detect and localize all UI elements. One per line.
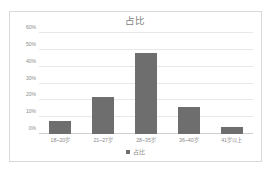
- y-axis-tick-label: 10%: [26, 108, 36, 114]
- x-axis-tick-label: 36~40岁: [167, 136, 210, 148]
- bar-series: [39, 33, 253, 134]
- chart-container[interactable]: 占比 0%10%20%30%40%50%60% 18~20岁21~27岁28~3…: [9, 11, 262, 162]
- bar-slot: [39, 33, 82, 134]
- legend-swatch-icon: [126, 150, 130, 154]
- bar[interactable]: [178, 107, 200, 134]
- bar[interactable]: [49, 121, 71, 134]
- x-axis-tick-label: 28~35岁: [125, 136, 168, 148]
- chart-title: 占比: [10, 15, 261, 27]
- y-axis-tick-label: 50%: [26, 41, 36, 47]
- bar-slot: [82, 33, 125, 134]
- x-axis-tick-label: 41岁以上: [210, 136, 253, 148]
- x-axis-tick-labels: 18~20岁21~27岁28~35岁36~40岁41岁以上: [39, 136, 253, 148]
- legend-label: 占比: [133, 148, 145, 156]
- y-axis-tick-label: 40%: [26, 58, 36, 64]
- y-axis-tick-label: 20%: [26, 91, 36, 97]
- bar[interactable]: [92, 97, 114, 134]
- bar-slot: [167, 33, 210, 134]
- chart-legend[interactable]: 占比: [10, 148, 261, 156]
- bar-slot: [125, 33, 168, 134]
- x-axis-tick-label: 18~20岁: [39, 136, 82, 148]
- y-axis-tick-label: 0%: [29, 125, 36, 131]
- x-axis-tick-label: 21~27岁: [82, 136, 125, 148]
- bar[interactable]: [135, 53, 157, 134]
- bar-slot: [210, 33, 253, 134]
- y-axis-tick-label: 60%: [26, 24, 36, 30]
- bar[interactable]: [221, 127, 243, 134]
- plot-area: 0%10%20%30%40%50%60%: [39, 33, 253, 134]
- y-axis-tick-label: 30%: [26, 75, 36, 81]
